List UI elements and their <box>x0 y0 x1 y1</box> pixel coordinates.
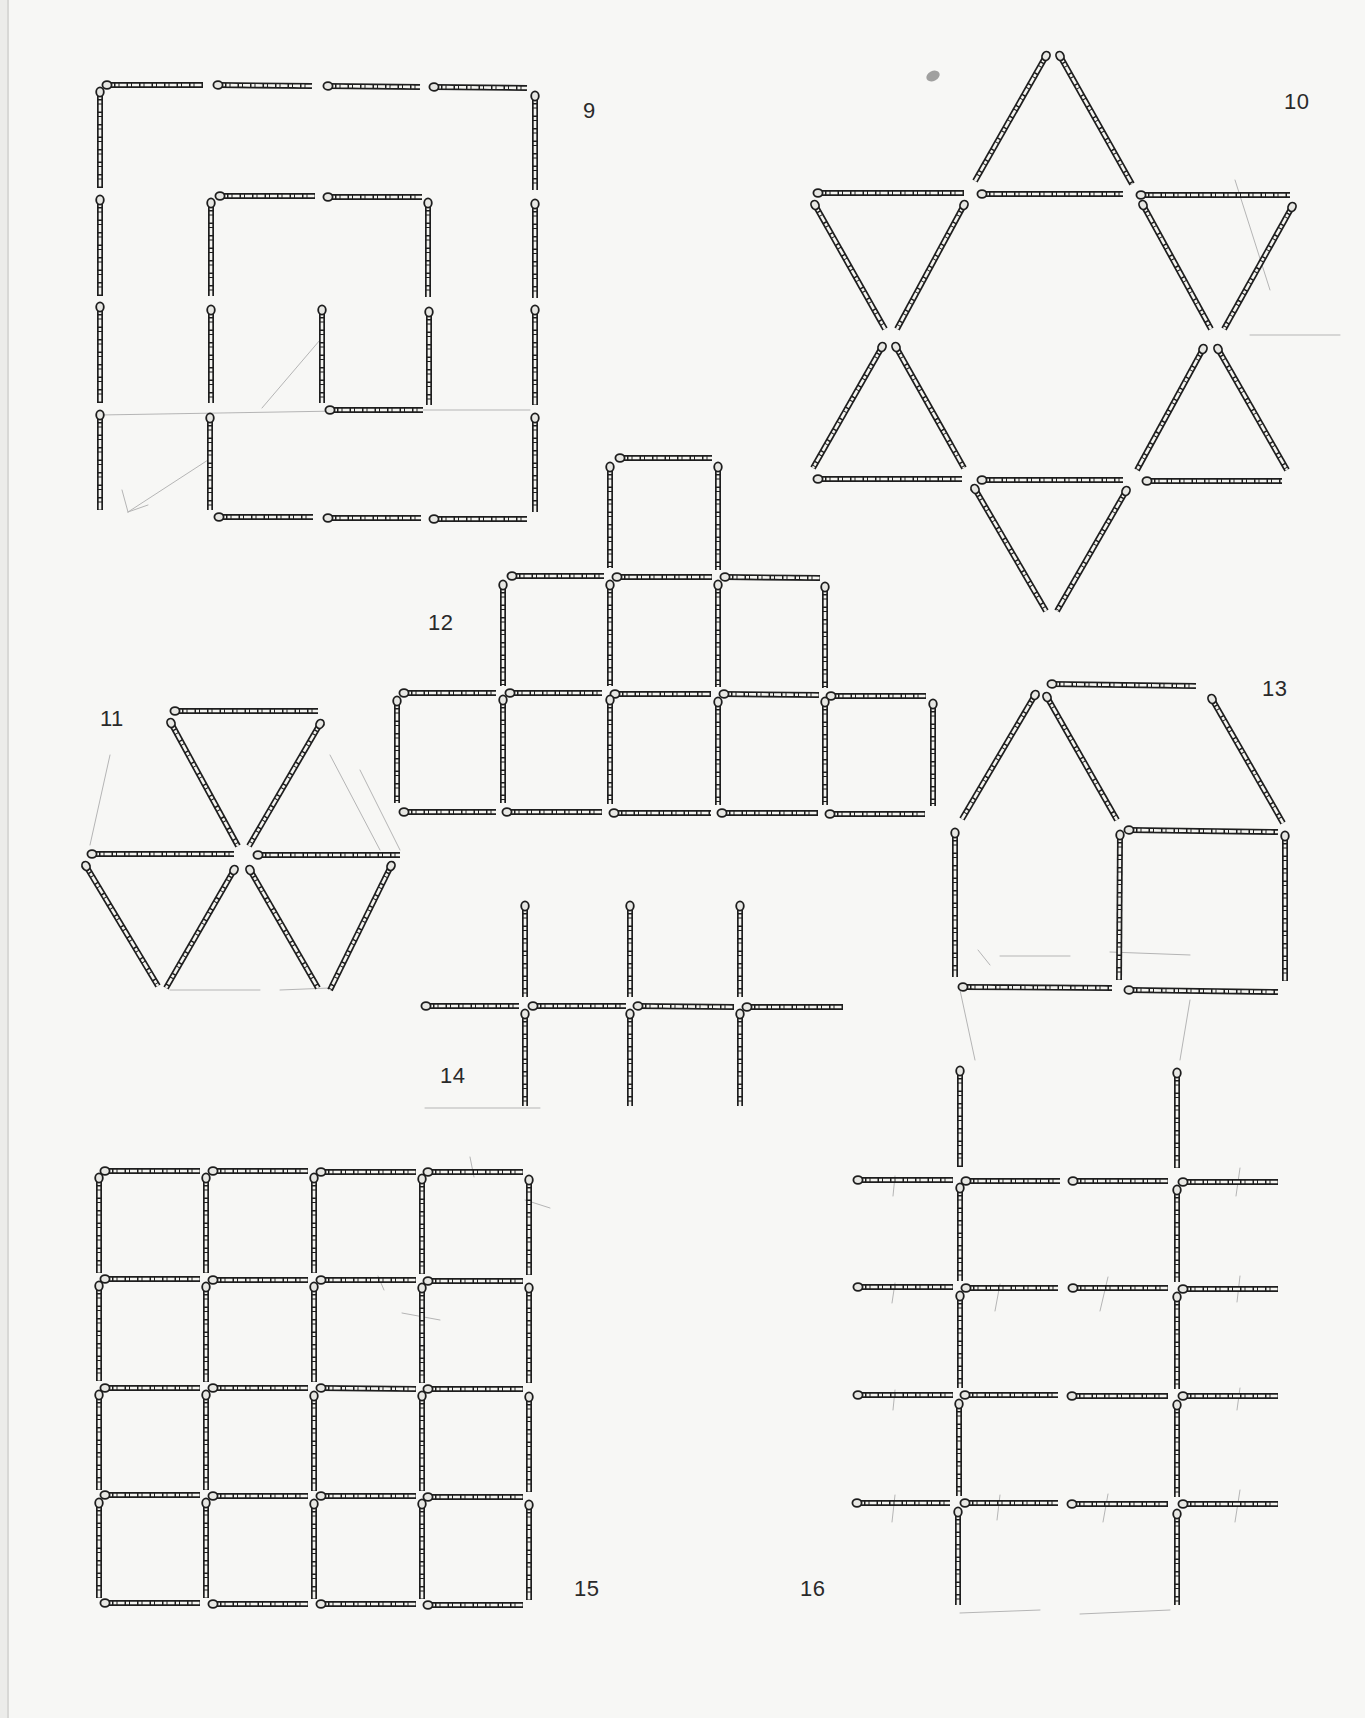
match-head-icon <box>960 1499 969 1507</box>
match-head-icon <box>310 1499 318 1508</box>
matchstick <box>323 193 422 201</box>
match-head-icon <box>825 810 834 818</box>
match-head-icon <box>95 1390 103 1399</box>
matchstick <box>825 810 925 818</box>
match-head-icon <box>310 1173 318 1182</box>
figure-label-13: 13 <box>1262 676 1287 702</box>
match-head-icon <box>531 199 539 208</box>
matchstick <box>95 1498 103 1598</box>
match-head-icon <box>208 1384 217 1392</box>
matchstick <box>531 413 539 512</box>
matchstick <box>399 808 496 816</box>
matchstick <box>826 692 926 700</box>
match-head-icon <box>214 513 223 521</box>
matchstick <box>170 707 318 715</box>
matchstick <box>958 983 1112 991</box>
matchstick <box>100 1384 200 1392</box>
matchstick <box>393 696 401 803</box>
match-head-icon <box>507 572 516 580</box>
match-head-icon <box>424 198 432 207</box>
match-head-icon <box>717 809 726 817</box>
match-head-icon <box>961 1284 970 1292</box>
matchstick <box>1142 477 1282 485</box>
matchstick <box>1047 680 1196 688</box>
matchstick <box>206 413 214 510</box>
match-head-icon <box>1068 1284 1077 1292</box>
matchstick <box>100 1491 200 1499</box>
match-head-icon <box>1173 1185 1181 1194</box>
matchstick <box>423 1493 523 1501</box>
figure-15 <box>95 1167 533 1609</box>
figure-label-14: 14 <box>440 1063 465 1089</box>
matchstick <box>95 1281 103 1381</box>
matchstick <box>95 1390 103 1490</box>
matchstick <box>719 690 819 698</box>
match-head-icon <box>393 696 401 705</box>
match-head-icon <box>977 476 986 484</box>
match-head-icon <box>719 690 728 698</box>
match-head-icon <box>429 515 438 523</box>
matchstick <box>954 1507 962 1605</box>
matchstick <box>316 1492 416 1500</box>
pencil-mark <box>262 340 320 408</box>
match-head-icon <box>253 851 262 859</box>
match-head-icon <box>742 1003 751 1011</box>
matchstick <box>249 718 326 846</box>
matchstick <box>1054 50 1132 184</box>
match-head-icon <box>958 983 967 991</box>
match-head-icon <box>418 1283 426 1292</box>
match-head-icon <box>1047 680 1056 688</box>
match-head-icon <box>102 81 111 89</box>
pencil-mark <box>1103 1494 1108 1522</box>
match-head-icon <box>100 1599 109 1607</box>
matchstick <box>423 1385 523 1393</box>
matchstick <box>714 462 722 570</box>
matchstick <box>742 1003 843 1011</box>
matchstick <box>626 1009 634 1106</box>
match-head-icon <box>977 190 986 198</box>
match-head-icon <box>813 189 822 197</box>
matchstick <box>525 1175 533 1275</box>
match-head-icon <box>499 695 507 704</box>
figure-10 <box>809 50 1297 611</box>
matchstick <box>720 573 820 581</box>
matchstick <box>977 476 1123 484</box>
matchstick <box>96 87 104 188</box>
matchstick <box>100 1275 200 1283</box>
matchstick <box>525 1500 533 1600</box>
match-head-icon <box>853 1391 862 1399</box>
matchstick <box>499 695 507 803</box>
match-head-icon <box>609 809 618 817</box>
match-head-icon <box>1178 1178 1187 1186</box>
matchstick <box>606 462 614 568</box>
match-head-icon <box>323 82 332 90</box>
match-head-icon <box>418 1391 426 1400</box>
matchstick <box>96 302 104 403</box>
figure-label-9: 9 <box>583 98 596 124</box>
figure-13 <box>951 680 1289 994</box>
match-head-icon <box>421 1002 430 1010</box>
matchstick <box>425 307 433 405</box>
figure-label-15: 15 <box>574 1576 599 1602</box>
match-head-icon <box>525 1392 533 1401</box>
matchstick <box>323 82 420 90</box>
matchstick <box>975 50 1052 181</box>
matchstick <box>208 1492 308 1500</box>
pencil-mark <box>1180 1000 1190 1060</box>
matchstick <box>1173 1292 1181 1389</box>
match-head-icon <box>202 1498 210 1507</box>
match-head-icon <box>531 305 539 314</box>
matchstick <box>316 1276 416 1284</box>
match-head-icon <box>736 901 744 910</box>
matchstick <box>316 1384 416 1392</box>
match-head-icon <box>505 689 514 697</box>
match-head-icon <box>325 406 334 414</box>
pencil-mark <box>128 460 208 512</box>
matchstick <box>418 1499 426 1599</box>
matchstick <box>525 1283 533 1383</box>
matchstick <box>813 475 962 483</box>
pencil-mark <box>122 490 128 512</box>
pencil-mark <box>960 990 975 1060</box>
matchstick <box>202 1173 210 1273</box>
match-head-icon <box>956 1183 964 1192</box>
